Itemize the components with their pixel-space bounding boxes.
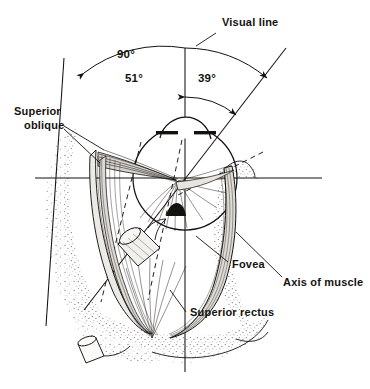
figure-canvas: Visual line 90° 51° 39° Superior oblique…	[0, 0, 370, 389]
lid-margin-left	[156, 131, 178, 134]
cornea-outline	[160, 117, 211, 139]
arc-39	[185, 97, 236, 115]
leader-superior-rectus	[170, 290, 186, 312]
leader-visual-line	[196, 33, 216, 46]
orbit-diagram-svg	[0, 0, 370, 389]
label-visual-line: Visual line	[222, 16, 278, 29]
label-angle-51: 51°	[125, 72, 143, 85]
label-superior-rectus: Superior rectus	[190, 306, 274, 319]
lid-margin-right	[194, 131, 216, 134]
label-fovea: Fovea	[232, 258, 265, 271]
angle-arcs	[84, 46, 267, 115]
label-superior-oblique-line2: oblique	[24, 119, 65, 132]
label-angle-90: 90°	[117, 48, 135, 61]
label-superior-oblique-line1: Superior	[14, 105, 61, 118]
label-angle-39: 39°	[198, 72, 216, 85]
label-axis-of-muscle: Axis of muscle	[283, 276, 363, 289]
